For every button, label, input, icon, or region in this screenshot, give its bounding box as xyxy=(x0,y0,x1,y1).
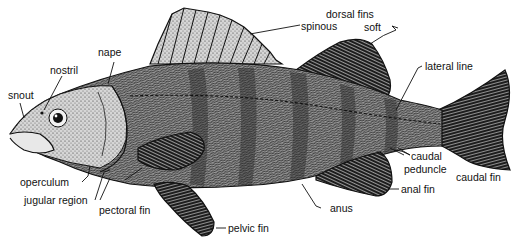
label-spinous: spinous xyxy=(301,20,337,32)
caudal-fin-shape xyxy=(438,70,510,170)
spinous-dorsal-fin xyxy=(150,8,282,64)
nostril-dot xyxy=(40,111,43,114)
label-caudal-peduncle-line1: caudal xyxy=(411,150,442,162)
label-lateral-line: lateral line xyxy=(425,60,473,72)
label-anal-fin: anal fin xyxy=(401,183,435,195)
pelvic-fin-shape xyxy=(154,182,214,236)
label-snout: snout xyxy=(8,89,34,101)
label-jugular-region: jugular region xyxy=(23,194,88,206)
label-operculum: operculum xyxy=(20,176,69,188)
label-nostril: nostril xyxy=(50,64,78,76)
label-dorsal-fins: dorsal fins xyxy=(326,8,374,20)
label-soft: soft xyxy=(364,21,381,33)
fish-anatomy-diagram: snout nostril nape dorsal fins spinous s… xyxy=(0,0,518,245)
label-pelvic-fin: pelvic fin xyxy=(228,222,269,234)
label-caudal-peduncle-line2: peduncle xyxy=(404,163,447,175)
label-anus: anus xyxy=(330,202,353,214)
label-caudal-fin: caudal fin xyxy=(456,171,501,183)
label-pectoral-fin: pectoral fin xyxy=(99,204,151,216)
label-nape: nape xyxy=(98,46,122,58)
